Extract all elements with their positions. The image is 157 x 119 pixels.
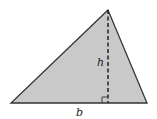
triangle-shape	[11, 10, 147, 103]
base-label: b	[76, 106, 83, 119]
triangle-figure: h b	[0, 0, 157, 119]
height-label: h	[97, 56, 104, 69]
triangle-diagram: h b	[0, 0, 157, 119]
